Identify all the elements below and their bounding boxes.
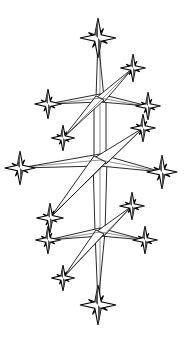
sparkle-star-icon: [5, 151, 36, 185]
sparkle-star-icon: [80, 285, 116, 325]
sparkle-star-icon: [147, 155, 178, 189]
sparkle-star-icon: [80, 18, 116, 58]
sparkle-star-icon: [35, 89, 62, 119]
sparkle-star-icon: [130, 114, 155, 142]
star-cluster-illustration: [0, 0, 194, 340]
middle-hub-arms: [20, 128, 162, 218]
sparkle-star-icon: [135, 92, 160, 120]
sparkle-star-icon: [132, 226, 157, 254]
sparkle-star-icon: [35, 226, 60, 254]
